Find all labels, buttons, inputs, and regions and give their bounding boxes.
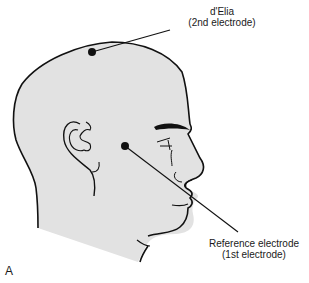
reference-role: (1st electrode) — [200, 249, 308, 260]
reference-label: Reference electrode (1st electrode) — [200, 238, 308, 260]
panel-label: A — [5, 264, 13, 278]
delia-label: d'Elia (2nd electrode) — [172, 6, 272, 28]
reference-name: Reference electrode — [200, 238, 308, 249]
delia-name: d'Elia — [172, 6, 272, 17]
delia-role: (2nd electrode) — [172, 17, 272, 28]
